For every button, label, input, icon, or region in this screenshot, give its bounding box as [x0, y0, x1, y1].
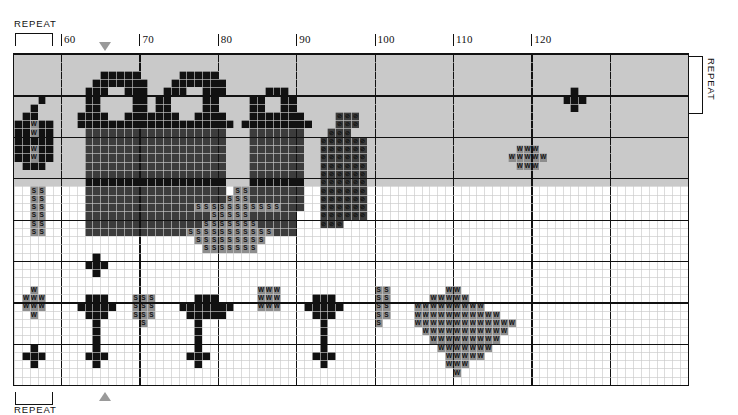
grid-line-h	[14, 112, 688, 113]
grid-line-h	[14, 95, 688, 96]
grid-line-h	[14, 228, 688, 229]
grid-line-h	[14, 244, 688, 245]
axis-tick	[139, 34, 140, 46]
repeat-bracket-top	[15, 33, 53, 46]
axis-tick	[61, 34, 62, 46]
grid-line-h	[14, 352, 688, 353]
grid-line-h	[14, 335, 688, 336]
grid-line-h	[14, 277, 688, 278]
grid-line-h	[14, 137, 688, 138]
grid-line-h	[14, 87, 688, 88]
grid-line-h	[14, 294, 688, 295]
axis-tick-label: 70	[142, 33, 154, 45]
grid-line-h	[14, 286, 688, 287]
grid-line-h	[14, 162, 688, 163]
grid-line-h	[14, 54, 688, 55]
grid-line-v	[688, 54, 689, 385]
grid-line-h	[14, 104, 688, 105]
axis-tick	[296, 34, 297, 46]
grid-line-h	[14, 153, 688, 154]
grid-line-h	[14, 377, 688, 378]
grid-line-h	[14, 211, 688, 212]
grid-line-h	[14, 220, 688, 221]
repeat-bracket-right	[689, 56, 703, 114]
grid-line-h	[14, 195, 688, 196]
axis-tick-label: 80	[221, 33, 233, 45]
grid-line-h	[14, 261, 688, 262]
grid-line-h	[14, 203, 688, 204]
grid-line-h	[14, 79, 688, 80]
pattern-cells: ⊘⊘⊘W⊘⊘⊘W⊘⊘⊘⊘⊘⊘⊘⊘⊘W⊘⊘⊘⊘⊘⊘WWWW⊘⊘⊘⊘⊘⊘WWWWW⊘…	[14, 54, 688, 385]
grid-line-h	[14, 269, 688, 270]
repeat-label-bottom: REPEAT	[14, 404, 57, 415]
axis-tick-label: 110	[456, 33, 473, 45]
grid-line-h	[14, 145, 688, 146]
grid-line-h	[14, 302, 688, 303]
grid-line-h	[14, 360, 688, 361]
cross-stitch-chart-page: REPEAT REPEAT REPEAT 60708090100110120 ⊘…	[0, 0, 738, 415]
axis-tick-label: 120	[534, 33, 551, 45]
repeat-label-top: REPEAT	[14, 18, 57, 29]
bottom-marker-triangle	[99, 392, 111, 401]
grid-line-h	[14, 385, 688, 386]
axis-tick-label: 100	[378, 33, 395, 45]
grid-line-h	[14, 170, 688, 171]
axis-tick	[531, 34, 532, 46]
grid-line-h	[14, 344, 688, 345]
grid-line-h	[14, 186, 688, 187]
axis-tick-label: 90	[299, 33, 311, 45]
pattern-grid[interactable]: ⊘⊘⊘W⊘⊘⊘W⊘⊘⊘⊘⊘⊘⊘⊘⊘W⊘⊘⊘⊘⊘⊘WWWW⊘⊘⊘⊘⊘⊘WWWWW⊘…	[14, 54, 688, 385]
axis-tick	[218, 34, 219, 46]
top-marker-triangle	[99, 42, 111, 51]
grid-line-h	[14, 128, 688, 129]
grid-line-h	[14, 311, 688, 312]
grid-line-h	[14, 327, 688, 328]
repeat-label-right: REPEAT	[706, 58, 717, 101]
grid-line-h	[14, 71, 688, 72]
axis-tick	[453, 34, 454, 46]
grid-line-h	[14, 253, 688, 254]
axis-tick-label: 60	[64, 33, 76, 45]
grid-line-h	[14, 319, 688, 320]
grid-line-h	[14, 178, 688, 179]
grid-line-h	[14, 368, 688, 369]
grid-line-h	[14, 236, 688, 237]
grid-line-h	[14, 62, 688, 63]
grid-line-h	[14, 120, 688, 121]
axis-tick	[375, 34, 376, 46]
